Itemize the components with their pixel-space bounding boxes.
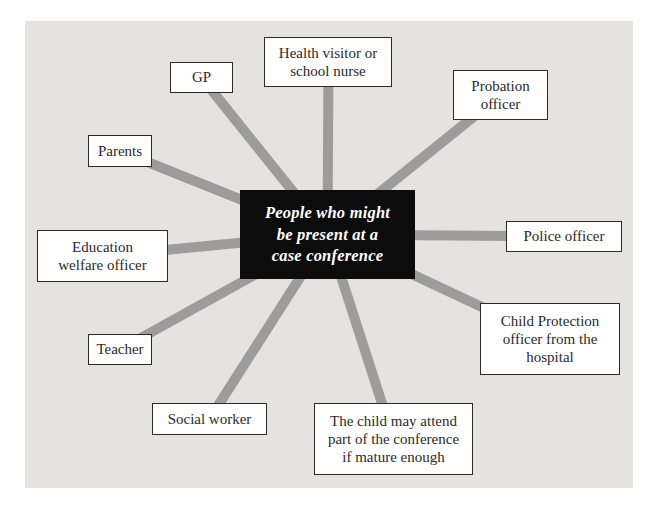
node-probation-officer: Probation officer: [453, 70, 548, 120]
page: GP Health visitor or school nurse Probat…: [0, 0, 654, 513]
node-police-officer: Police officer: [506, 221, 622, 252]
center-node: People who might be present at a case co…: [240, 190, 415, 279]
diagram-panel: GP Health visitor or school nurse Probat…: [25, 21, 633, 488]
node-social-worker: Social worker: [152, 403, 267, 435]
node-child-protection: Child Protection officer from the hospit…: [480, 303, 620, 375]
node-teacher: Teacher: [88, 334, 152, 365]
node-health-visitor: Health visitor or school nurse: [264, 37, 392, 87]
node-education-welfare: Education welfare officer: [37, 230, 168, 282]
node-parents: Parents: [88, 135, 152, 167]
node-gp: GP: [170, 62, 233, 93]
node-child-may-attend: The child may attend part of the confere…: [314, 403, 473, 475]
